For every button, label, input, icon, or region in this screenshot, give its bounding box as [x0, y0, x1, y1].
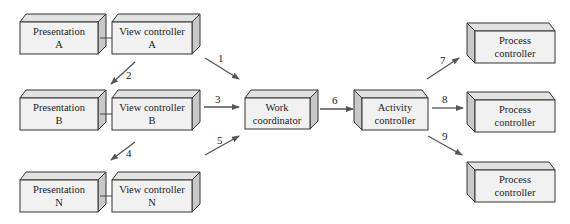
arrow-label: 2 — [126, 69, 132, 81]
arrow-1: 1 — [205, 52, 239, 79]
presentation-a-box: Presentation A — [20, 14, 106, 54]
box-label: Work — [265, 102, 289, 113]
arrow-7: 7 — [427, 54, 459, 79]
box-label: Presentation — [33, 26, 86, 37]
box-label: View controller — [119, 102, 185, 113]
box-label: coordinator — [253, 115, 302, 126]
box-label: View controller — [119, 26, 185, 37]
arrow-9: 9 — [428, 130, 462, 155]
process-controller-2-box: Process controller — [467, 92, 555, 132]
architecture-diagram: Presentation A View controller A Present… — [0, 0, 570, 224]
arrow-label: 6 — [332, 94, 338, 106]
box-label: N — [148, 197, 156, 208]
process-controller-1-box: Process controller — [467, 23, 555, 63]
arrow-label: 8 — [442, 93, 448, 105]
box-label: B — [148, 115, 155, 126]
box-label: A — [55, 39, 63, 50]
arrow-label: 9 — [442, 130, 448, 142]
view-controller-a-box: View controller A — [112, 14, 200, 54]
arrow-2: 2 — [111, 62, 135, 84]
arrow-label: 3 — [215, 93, 221, 105]
box-label: N — [55, 197, 63, 208]
arrow-4: 4 — [111, 142, 135, 160]
arrow-label: 5 — [217, 134, 223, 146]
box-label: Presentation — [33, 102, 86, 113]
box-label: A — [148, 39, 156, 50]
arrow-5: 5 — [205, 134, 239, 155]
arrow-label: 7 — [440, 54, 446, 66]
box-label: View controller — [119, 184, 185, 195]
box-label: Process — [499, 174, 531, 185]
view-controller-b-box: View controller B — [112, 90, 200, 130]
box-label: controller — [495, 48, 536, 59]
box-label: Process — [499, 104, 531, 115]
presentation-b-box: Presentation B — [20, 90, 106, 130]
process-controller-3-box: Process controller — [467, 162, 555, 202]
presentation-n-box: Presentation N — [20, 172, 106, 212]
box-label: controller — [375, 115, 416, 126]
box-label: Presentation — [33, 184, 86, 195]
arrow-6: 6 — [320, 94, 353, 109]
arrow-label: 4 — [126, 147, 132, 159]
arrow-label: 1 — [218, 52, 224, 64]
activity-controller-box: Activity controller — [354, 90, 428, 130]
arrow-3: 3 — [204, 93, 239, 107]
view-controller-n-box: View controller N — [112, 172, 200, 212]
box-label: controller — [495, 117, 536, 128]
box-label: Activity — [378, 102, 413, 113]
arrow-8: 8 — [432, 93, 463, 108]
box-label: controller — [495, 187, 536, 198]
box-label: Process — [499, 35, 531, 46]
work-coordinator-box: Work coordinator — [245, 90, 318, 129]
box-label: B — [55, 115, 62, 126]
